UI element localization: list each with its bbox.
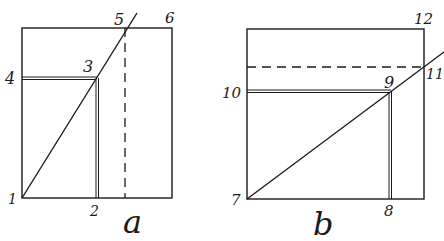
point-label-2: 2 xyxy=(89,203,99,219)
point-label-7: 7 xyxy=(231,191,241,209)
point-label-10: 10 xyxy=(222,84,242,102)
figure-a-caption: a xyxy=(123,203,142,241)
point-label-12: 12 xyxy=(414,10,433,28)
figure-b: 7 8 9 10 11 12 b xyxy=(222,10,444,241)
figure-a-diagonal xyxy=(22,13,137,198)
figure-b-caption: b xyxy=(313,205,333,241)
point-label-9: 9 xyxy=(384,73,394,92)
point-label-5: 5 xyxy=(114,10,124,29)
point-label-4: 4 xyxy=(4,69,15,88)
point-label-11: 11 xyxy=(426,66,444,82)
figure-b-diagonal xyxy=(247,52,444,199)
figure-b-rectangle xyxy=(247,29,424,199)
point-label-3: 3 xyxy=(83,57,93,76)
figure-a: 1 2 3 4 5 6 a xyxy=(4,9,175,241)
point-label-6: 6 xyxy=(165,9,175,27)
proportion-diagram: 1 2 3 4 5 6 a 7 8 9 10 11 12 b xyxy=(0,0,444,241)
point-label-1: 1 xyxy=(8,191,17,207)
point-label-8: 8 xyxy=(384,202,394,220)
figure-a-rectangle xyxy=(22,28,172,198)
